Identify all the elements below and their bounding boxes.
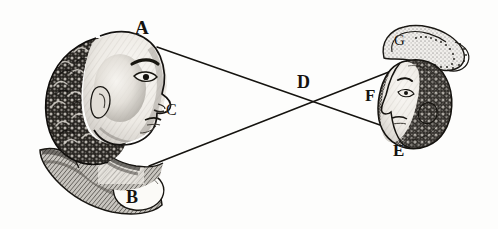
diagram-canvas (0, 0, 498, 229)
label-a: A (135, 18, 149, 37)
label-f: F (365, 87, 375, 104)
label-g: G (394, 33, 405, 48)
large-profile-head (30, 28, 180, 220)
label-e: E (393, 142, 404, 159)
ray-A-to-E (157, 47, 400, 132)
label-d: D (297, 73, 310, 91)
optics-diagram-figure: A B C D E F G (0, 0, 498, 229)
ray-B-to-G (149, 68, 399, 166)
small-inverted-head (372, 20, 475, 155)
sight-rays (149, 47, 400, 166)
label-c: C (166, 102, 177, 118)
label-b: B (126, 188, 138, 206)
